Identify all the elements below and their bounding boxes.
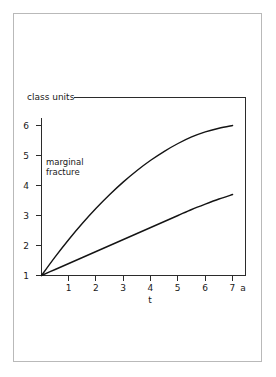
x-axis-title: t — [148, 295, 152, 305]
x-tick-label-2: 2 — [93, 283, 99, 293]
chart-title: class units — [27, 92, 75, 102]
y-tick-label-4: 4 — [23, 181, 29, 191]
annotation-line-2: fracture — [46, 167, 80, 177]
x-tick-label-4: 4 — [148, 283, 154, 293]
x-tick-label-5: 5 — [175, 283, 181, 293]
x-axis-ticks — [69, 276, 233, 282]
y-tick-label-3: 3 — [23, 211, 29, 221]
series-upper-curve — [42, 126, 233, 276]
x-tick-label-1: 1 — [66, 283, 72, 293]
y-axis-ticks — [36, 126, 42, 276]
y-tick-label-6: 6 — [23, 121, 29, 131]
chart-figure: class units 6 5 4 3 2 1 — [0, 0, 276, 377]
x-tick-label-6: 6 — [202, 283, 208, 293]
series-lower-curve — [42, 195, 233, 276]
y-tick-label-1: 1 — [23, 271, 29, 281]
x-tick-label-3: 3 — [120, 283, 126, 293]
y-axis-tick-labels: 6 5 4 3 2 1 — [23, 121, 29, 281]
chart-frame — [74, 98, 246, 276]
y-tick-label-2: 2 — [23, 241, 29, 251]
chart-series-group — [42, 126, 233, 276]
annotation-line-1: marginal — [46, 157, 84, 167]
x-axis-tick-labels: 1 2 3 4 5 6 7 a — [66, 283, 246, 293]
x-axis-unit-label: a — [240, 283, 246, 293]
x-tick-label-7: 7 — [229, 283, 235, 293]
marginal-fracture-annotation: marginal fracture — [46, 157, 84, 177]
y-tick-label-5: 5 — [23, 151, 29, 161]
chart-svg: class units 6 5 4 3 2 1 — [0, 0, 276, 377]
